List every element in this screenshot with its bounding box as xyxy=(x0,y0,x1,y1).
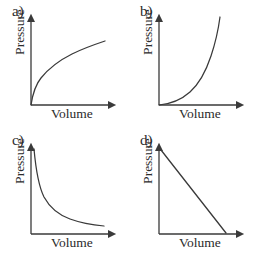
panel-b-x-axis-label: Volume xyxy=(150,106,250,122)
panel-a: a) Pressure Volume xyxy=(0,0,127,129)
panel-b-curve xyxy=(159,17,220,105)
panel-c-curve xyxy=(34,149,104,226)
panel-a-curve xyxy=(31,41,105,105)
panel-a-y-axis-label: Pressure xyxy=(12,0,28,70)
panel-b-y-axis-label: Pressure xyxy=(140,0,156,70)
panel-c-x-axis-label: Volume xyxy=(22,235,122,251)
panel-d-line xyxy=(161,150,226,233)
pressure-volume-figure: a) Pressure Volume b) Pressure Volume xyxy=(0,0,255,258)
panel-b: b) Pressure Volume xyxy=(128,0,255,129)
panel-c-y-axis-label: Pressure xyxy=(12,123,28,199)
panel-d-x-axis-label: Volume xyxy=(150,235,250,251)
panel-a-x-axis-label: Volume xyxy=(22,106,122,122)
panel-d: d) Pressure Volume xyxy=(128,129,255,258)
panel-c: c) Pressure Volume xyxy=(0,129,127,258)
panel-d-y-axis-label: Pressure xyxy=(140,123,156,199)
